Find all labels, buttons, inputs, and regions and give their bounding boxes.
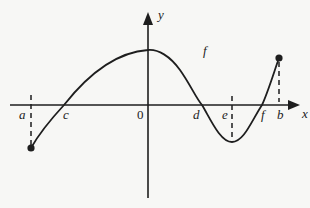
left-endpoint-dot: [27, 144, 34, 151]
right-endpoint-dot: [275, 54, 282, 61]
point-a-label: a: [19, 108, 26, 121]
point-d-label: d: [193, 108, 200, 121]
function-label: f: [203, 44, 207, 57]
x-axis-label: x: [302, 107, 308, 120]
point-b-label: b: [277, 108, 284, 121]
y-axis-arrow-icon: [143, 12, 153, 25]
graph-canvas: [0, 0, 310, 208]
x-axis-arrow-icon: [288, 100, 300, 110]
function-curve: [31, 50, 279, 148]
point-c-label: c: [63, 108, 69, 121]
y-axis-label: y: [158, 8, 164, 21]
function-graph-diagram: y x 0 f a c d e f b: [0, 0, 310, 208]
point-f-label: f: [261, 108, 265, 121]
origin-label: 0: [137, 108, 144, 121]
point-e-label: e: [222, 108, 228, 121]
